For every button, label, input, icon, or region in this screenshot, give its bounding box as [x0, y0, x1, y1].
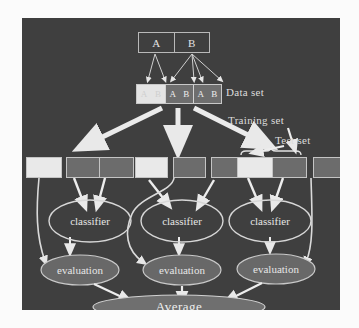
fold-1-boxes: [26, 157, 134, 178]
data-set-cell-a1: A: [137, 85, 151, 103]
data-set-cell-b1: B: [151, 85, 165, 103]
data-set-cell-a2: A: [166, 85, 180, 103]
data-set-segment-1: A B: [137, 85, 165, 103]
evaluation-label-3: evaluation: [253, 263, 299, 275]
fold-3-box-3: [313, 157, 340, 178]
data-set-segment-3: A B: [193, 85, 221, 103]
evaluation-label-1: evaluation: [57, 264, 103, 276]
classifier-label-2: classifier: [162, 215, 202, 227]
data-set-row: A B A B A B: [136, 84, 222, 104]
fold-2-box-1: [135, 157, 168, 178]
classifier-label-1: classifier: [70, 215, 110, 227]
fold-3-boxes: [237, 157, 340, 178]
training-set-label: Training set: [228, 114, 284, 126]
fold-2-boxes: [135, 157, 244, 178]
fold-3-box-2: [273, 157, 307, 178]
fold-1-test-to-evaluation: [37, 178, 45, 261]
data-set-label: Data set: [226, 86, 264, 98]
data-set-segment-2: A B: [165, 85, 193, 103]
fold-1-box-3: [100, 157, 134, 178]
evaluation-label-2: evaluation: [159, 264, 205, 276]
data-set-cell-b2: B: [180, 85, 194, 103]
diagram-canvas: A B A B A B A B Data set Training set Te…: [22, 18, 340, 310]
classifier-label-3: classifier: [250, 215, 290, 227]
test-set-label: Test set: [275, 134, 311, 146]
class-to-dataset-arrows: [148, 54, 221, 80]
fold-3-box-1: [237, 157, 273, 178]
class-cell-b: B: [174, 33, 210, 52]
data-set-cell-b3: B: [208, 85, 222, 103]
class-cell-a: A: [139, 33, 174, 52]
fold-1-box-1: [26, 157, 62, 178]
fold-1-box-2: [66, 157, 100, 178]
page-root: A B A B A B A B Data set Training set Te…: [0, 0, 359, 328]
data-set-cell-a3: A: [194, 85, 208, 103]
class-box: A B: [138, 32, 210, 53]
average-label: Average: [156, 299, 203, 310]
fold-2-box-2: [173, 157, 206, 178]
